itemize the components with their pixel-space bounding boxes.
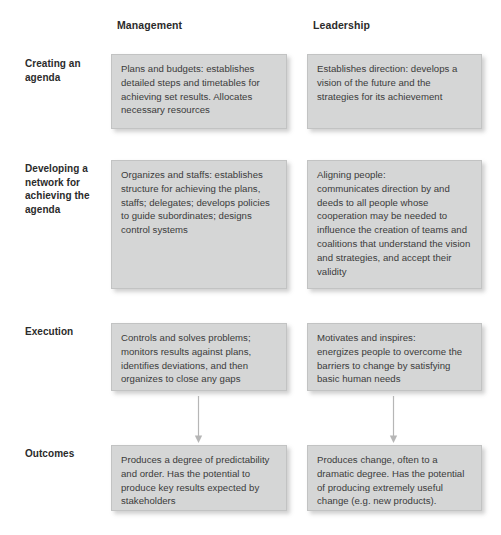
cell-creating-agenda-management: Plans and budgets: establishes detailed …: [111, 54, 287, 129]
cell-creating-agenda-leadership: Establishes direction: develops a vision…: [307, 54, 482, 129]
cell-text: Aligning people: communicates direction …: [317, 168, 474, 278]
row-label-creating-an-agenda: Creating an agenda: [25, 57, 109, 84]
cell-text: Establishes direction: develops a vision…: [317, 62, 474, 103]
row-label-outcomes: Outcomes: [25, 447, 109, 461]
cell-developing-network-leadership: Aligning people: communicates direction …: [307, 160, 482, 289]
cell-text: Controls and solves problems; monitors r…: [121, 331, 279, 386]
cell-text: Produces a degree of predictability and …: [121, 453, 279, 508]
row-label-execution: Execution: [25, 325, 109, 339]
cell-outcomes-management: Produces a degree of predictability and …: [111, 445, 287, 511]
cell-developing-network-management: Organizes and staffs: establishes struct…: [111, 160, 287, 289]
cell-text: Organizes and staffs: establishes struct…: [121, 168, 279, 237]
row-label-developing-a-network: Developing a network for achieving the a…: [25, 162, 109, 216]
down-arrow-icon-leadership: [387, 396, 400, 444]
cell-text: Plans and budgets: establishes detailed …: [121, 62, 279, 117]
cell-execution-leadership: Motivates and inspires: energizes people…: [307, 323, 482, 391]
management-leadership-matrix: Management Leadership Creating an agenda…: [0, 0, 501, 535]
cell-outcomes-leadership: Produces change, often to a dramatic deg…: [307, 445, 482, 511]
cell-text: Motivates and inspires: energizes people…: [317, 331, 474, 386]
cell-execution-management: Controls and solves problems; monitors r…: [111, 323, 287, 391]
column-header-leadership: Leadership: [313, 19, 370, 32]
column-header-management: Management: [117, 19, 182, 32]
cell-text: Produces change, often to a dramatic deg…: [317, 453, 474, 508]
down-arrow-icon-management: [192, 396, 205, 444]
